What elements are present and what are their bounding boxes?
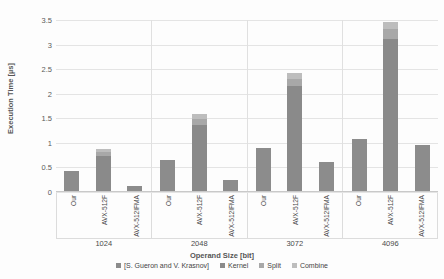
bar-label-text: AVX-512IFMA: [323, 195, 330, 237]
bar-segment: [64, 171, 79, 192]
bar[interactable]: [64, 171, 79, 192]
bar-label-text: AVX-512F: [196, 195, 203, 225]
bar-label-text: AVX-512F: [386, 195, 393, 225]
legend-item[interactable]: Combine: [292, 262, 328, 269]
bar-label-text: Our: [69, 195, 76, 206]
legend-swatch: [220, 263, 225, 268]
bar-group-labels: OurAVX-512FAVX-512IFMA: [57, 193, 152, 238]
bar[interactable]: [383, 22, 398, 192]
bar[interactable]: [352, 139, 367, 192]
bar-segment: [383, 22, 398, 29]
bar-label: AVX-512F: [97, 193, 112, 238]
bar[interactable]: [160, 160, 175, 192]
bar-label: Our: [160, 193, 175, 238]
bar-label-text: Our: [164, 195, 171, 206]
bar-label: AVX-512IFMA: [319, 193, 334, 238]
group-label: 1024: [56, 239, 152, 251]
y-tick-label: 2: [48, 89, 52, 98]
bar-label: AVX-512IFMA: [128, 193, 143, 238]
bar-group-labels: OurAVX-512FAVX-512IFMA: [152, 193, 247, 238]
bar[interactable]: [96, 149, 111, 192]
bar-segment: [383, 39, 398, 192]
legend-item[interactable]: Kernel: [220, 262, 248, 269]
bar-label: AVX-512IFMA: [414, 193, 429, 238]
bar-label: Our: [351, 193, 366, 238]
bar-segment: [287, 86, 302, 192]
bar-label: Our: [256, 193, 271, 238]
bar-segment: [256, 148, 271, 192]
bar-segment: [192, 125, 207, 192]
group-label: 2048: [152, 239, 248, 251]
legend-item[interactable]: Split: [259, 262, 281, 269]
bar-segment: [319, 162, 334, 192]
legend-swatch: [292, 263, 297, 268]
bar-label-text: AVX-512F: [101, 195, 108, 225]
y-tick-label: 1: [48, 138, 52, 147]
bar-group: [152, 20, 248, 192]
group-category-labels: 1024204830724096: [56, 239, 438, 251]
bar-label-text: Our: [260, 195, 267, 206]
bar-segment: [287, 79, 302, 86]
bar-group: [248, 20, 344, 192]
bar-segment: [383, 29, 398, 38]
bar-label: AVX-512IFMA: [223, 193, 238, 238]
bar-group-labels: OurAVX-512FAVX-512IFMA: [248, 193, 343, 238]
bar-group: [343, 20, 438, 192]
bar-label-text: AVX-512F: [291, 195, 298, 225]
bar[interactable]: [256, 148, 271, 192]
y-axis-ticks: 00.511.522.533.5: [14, 20, 54, 192]
bar-label-text: AVX-512IFMA: [132, 195, 139, 237]
bar-label-text: AVX-512IFMA: [227, 195, 234, 237]
legend-swatch: [116, 263, 121, 268]
y-tick-label: 1.5: [42, 114, 52, 123]
y-tick-label: 3.5: [42, 16, 52, 25]
bar-label: AVX-512F: [382, 193, 397, 238]
bar-segment: [96, 156, 111, 192]
bar-label-text: Our: [355, 195, 362, 206]
y-tick-label: 0.5: [42, 163, 52, 172]
bar-segment: [160, 160, 175, 192]
bar[interactable]: [319, 162, 334, 192]
plot-area: [56, 20, 438, 192]
bar-label: AVX-512F: [192, 193, 207, 238]
bar-group-labels: OurAVX-512FAVX-512IFMA: [343, 193, 437, 238]
bar-label: AVX-512F: [287, 193, 302, 238]
bar[interactable]: [192, 114, 207, 192]
legend-label: Kernel: [228, 262, 248, 269]
bar-group: [56, 20, 152, 192]
group-label: 3072: [247, 239, 343, 251]
bar[interactable]: [287, 73, 302, 192]
legend-label: Combine: [300, 262, 328, 269]
bar-category-labels: OurAVX-512FAVX-512IFMAOurAVX-512FAVX-512…: [56, 193, 438, 239]
bar-chart: Execution Time [µs] 00.511.522.533.5 Our…: [0, 0, 444, 279]
legend-label: [S. Gueron and V. Krasnov]: [124, 262, 209, 269]
legend-swatch: [259, 263, 264, 268]
y-tick-label: 0: [48, 188, 52, 197]
legend-label: Split: [267, 262, 281, 269]
x-axis-line: [56, 191, 438, 192]
bar[interactable]: [415, 145, 430, 192]
bar-segment: [415, 145, 430, 192]
legend: [S. Gueron and V. Krasnov]KernelSplitCom…: [0, 262, 444, 269]
bar-groups: [56, 20, 438, 192]
bar-segment: [352, 139, 367, 192]
bar-label: Our: [65, 193, 80, 238]
y-tick-label: 2.5: [42, 65, 52, 74]
group-label: 4096: [343, 239, 439, 251]
y-tick-label: 3: [48, 40, 52, 49]
bar-label-text: AVX-512IFMA: [418, 195, 425, 237]
x-axis-title: Operand Size [bit]: [0, 251, 444, 260]
legend-item[interactable]: [S. Gueron and V. Krasnov]: [116, 262, 209, 269]
